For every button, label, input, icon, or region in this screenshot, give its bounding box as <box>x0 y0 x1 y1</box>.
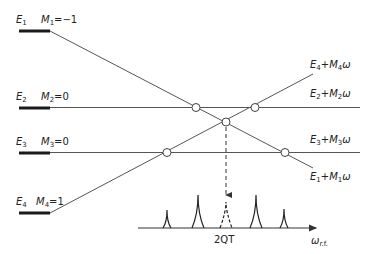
level-2-m-label: M2=0 <box>41 92 69 104</box>
energy-level-diagram: E1 M1=−1 E2 M2=0 E3 M3=0 E4 M4=1 E4+M4ω … <box>0 0 368 254</box>
diagram-graphics <box>0 0 368 254</box>
level-4-shifted-label: E4+M4ω <box>310 60 351 72</box>
level-2-label: E2 <box>16 92 27 104</box>
level-1-m-label: M1=−1 <box>41 15 77 27</box>
level-bars <box>19 31 50 213</box>
level-4-m-label: M4=1 <box>36 197 64 209</box>
level-2-shifted-label: E2+M2ω <box>310 89 351 101</box>
spectrum-peaks <box>163 195 288 228</box>
level-1-label: E1 <box>16 15 27 27</box>
level-1-shifted-label: E1+M1ω <box>310 172 351 184</box>
frequency-axis-label: ωr.f. <box>311 236 328 248</box>
level-3-shifted-label: E3+M3ω <box>310 135 351 147</box>
level-3-m-label: M3=0 <box>41 137 69 149</box>
level-4-label: E4 <box>16 197 27 209</box>
level-3-label: E3 <box>16 137 27 149</box>
center-peak-label: 2QT <box>214 235 234 245</box>
